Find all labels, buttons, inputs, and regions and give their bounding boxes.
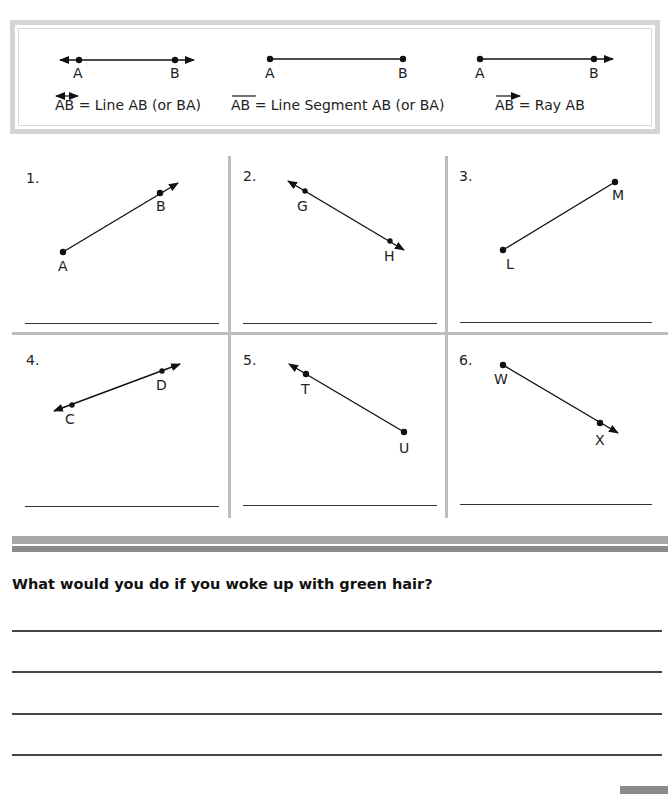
problem-5-number: 5.: [243, 352, 256, 368]
legend-line-label-a: A: [73, 65, 83, 81]
legend-line-definition: AB = Line AB (or BA): [55, 97, 201, 113]
problem-4-point-d: D: [156, 377, 167, 393]
grid-divider-left: [228, 156, 231, 518]
legend-segment-diagram: [268, 57, 406, 62]
writing-prompt: What would you do if you woke up with gr…: [12, 576, 433, 592]
problem-2-point-g: G: [297, 198, 308, 214]
page-corner-tab: [620, 786, 668, 794]
problem-3-figure: [501, 180, 618, 253]
problem-3-answer-line[interactable]: [460, 322, 652, 323]
problem-3-point-m: M: [612, 187, 624, 203]
problem-2-number: 2.: [243, 168, 256, 184]
problem-2-answer-line[interactable]: [243, 323, 437, 324]
problem-5-figure: [289, 364, 407, 435]
legend-ray-label-a: A: [475, 65, 485, 81]
problem-6-number: 6.: [459, 352, 472, 368]
problem-1-point-b: B: [156, 198, 166, 214]
problem-6-point-w: W: [494, 371, 508, 387]
section-divider-stripe-dark: [12, 546, 668, 552]
legend-segment-definition: AB = Line Segment AB (or BA): [231, 97, 444, 113]
legend-ray-definition: AB = Ray AB: [495, 97, 585, 113]
problem-6-point-x: X: [595, 432, 605, 448]
problem-4-point-c: C: [65, 411, 75, 427]
problem-6-answer-line[interactable]: [460, 504, 652, 505]
ray-definition-text: = Ray AB: [519, 97, 585, 113]
legend-segment-label-a: A: [265, 65, 275, 81]
writing-line-2[interactable]: [12, 671, 662, 673]
legend-ray-label-b: B: [589, 65, 599, 81]
problem-5-answer-line[interactable]: [243, 505, 437, 506]
problem-1-figure: [61, 183, 179, 255]
legend-ray-diagram: [478, 57, 614, 62]
line-notation: AB: [55, 97, 74, 113]
geometry-drawings: [0, 0, 668, 794]
problem-2-point-h: H: [384, 248, 395, 264]
section-divider-stripe: [12, 536, 668, 544]
problem-2-figure: [288, 181, 404, 250]
segment-notation: AB: [231, 97, 250, 113]
legend-line-label-b: B: [170, 65, 180, 81]
problem-4-answer-line[interactable]: [25, 506, 219, 507]
legend-line-diagram: [60, 58, 194, 63]
problem-1-point-a: A: [58, 258, 68, 274]
grid-divider-middle: [12, 332, 668, 335]
writing-line-4[interactable]: [12, 754, 662, 756]
grid-divider-right: [445, 156, 448, 518]
segment-definition-text: = Line Segment AB (or BA): [255, 97, 445, 113]
problem-6-figure: [501, 363, 619, 434]
ray-notation: AB: [495, 97, 514, 113]
problem-3-number: 3.: [459, 168, 472, 184]
writing-line-3[interactable]: [12, 713, 662, 715]
writing-line-1[interactable]: [12, 630, 662, 632]
legend-segment-label-b: B: [398, 65, 408, 81]
problem-1-answer-line[interactable]: [25, 323, 219, 324]
problem-1-number: 1.: [26, 170, 39, 186]
problem-5-point-t: T: [301, 381, 310, 397]
problem-5-point-u: U: [399, 440, 409, 456]
problem-4-number: 4.: [26, 352, 39, 368]
problem-3-point-l: L: [506, 256, 514, 272]
line-definition-text: = Line AB (or BA): [79, 97, 201, 113]
